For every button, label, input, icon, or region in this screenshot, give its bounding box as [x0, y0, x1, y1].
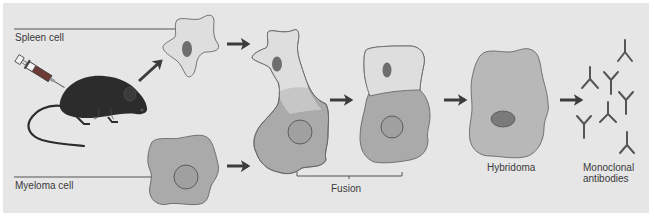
- antibody-icon: [582, 67, 598, 88]
- antibody-icon: [619, 92, 633, 114]
- monoclonal-antibodies-label-line2: antibodies: [583, 173, 654, 184]
- fusing-cell-early-nucleus-spleen: [272, 57, 282, 72]
- fusion-bracket: [297, 172, 402, 179]
- monoclonal-antibodies-label-line1: Monoclonal: [583, 162, 654, 173]
- hybridoma-label: Hybridoma: [487, 162, 535, 173]
- antibody-icon: [618, 40, 632, 61]
- arrow-mouse-to-spleen: [139, 61, 161, 81]
- spleen-cell-label: Spleen cell: [15, 32, 64, 43]
- fusing-cell-late-nucleus-spleen: [383, 63, 392, 78]
- myeloma-nucleus: [174, 165, 198, 189]
- antibody-icon: [577, 116, 591, 138]
- fusing-cell-early-nucleus-myeloma: [288, 120, 312, 144]
- diagram-canvas: [0, 0, 654, 219]
- myeloma-cell: [148, 135, 219, 204]
- spleen-cell: [163, 15, 219, 77]
- fusing-cell-late-nucleus-myeloma: [381, 116, 403, 138]
- mouse-icon: [29, 76, 148, 146]
- hybridoma-nucleus: [491, 111, 515, 127]
- antibody-icon: [600, 102, 616, 122]
- monoclonal-antibodies-label: Monoclonal antibodies: [583, 162, 654, 184]
- antibody-icon: [620, 132, 634, 153]
- antibody-icon: [604, 72, 618, 94]
- fusing-cell-early: [252, 30, 329, 174]
- fusing-cell-late: [360, 46, 430, 163]
- spleen-nucleus: [182, 41, 192, 57]
- myeloma-cell-label: Myeloma cell: [15, 180, 73, 191]
- hybridoma-cell: [469, 49, 548, 158]
- fusion-label: Fusion: [331, 183, 361, 194]
- syringe-icon: [14, 54, 67, 92]
- antibodies-group: [577, 40, 634, 153]
